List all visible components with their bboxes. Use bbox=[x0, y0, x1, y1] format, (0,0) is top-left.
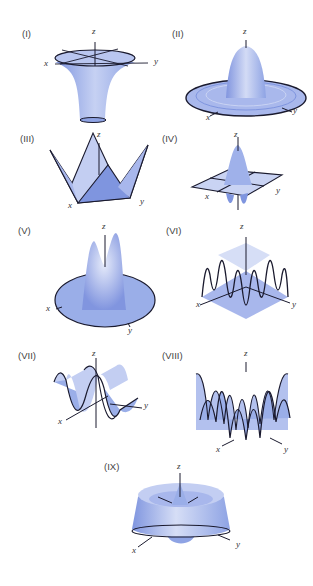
peak-on-square-surface bbox=[160, 125, 313, 215]
trumpet-surface bbox=[0, 20, 160, 130]
egg-crate-surface bbox=[160, 340, 313, 460]
bowl-spike-surface bbox=[80, 455, 240, 565]
ripple-peak-surface bbox=[160, 20, 313, 130]
panel-VII: (VII) z x y bbox=[0, 340, 160, 450]
panel-II: (II) z x y bbox=[160, 20, 313, 130]
panel-IX: (IX) z x y bbox=[80, 455, 240, 565]
sinusoidal-sheet-surface bbox=[0, 340, 160, 450]
panel-V: (V) z x y bbox=[0, 215, 160, 340]
panel-III: (III) z x y bbox=[0, 125, 160, 215]
panel-VI: (VI) z x y bbox=[160, 215, 313, 340]
panel-I: (I) z x y bbox=[0, 20, 160, 130]
twin-peak-surface bbox=[0, 215, 160, 340]
oscillating-square-surface bbox=[160, 215, 313, 340]
panel-IV: (IV) z x y bbox=[160, 125, 313, 215]
folded-surface bbox=[0, 125, 160, 215]
panel-VIII: (VIII) z x y bbox=[160, 340, 313, 460]
